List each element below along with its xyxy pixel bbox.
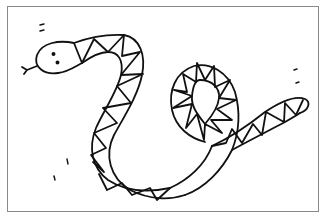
motion-mark-head-2 [40, 30, 44, 31]
snake-spiral-inner-edge [170, 146, 212, 188]
motion-mark-tail-1 [294, 69, 297, 70]
snake-tongue [22, 66, 37, 74]
motion-mark-head-1 [40, 24, 44, 25]
snake-tail-lower [232, 113, 300, 150]
snake-drawing [0, 0, 328, 218]
motion-mark-ground-2 [54, 176, 55, 180]
snake-eye-left [52, 53, 54, 55]
frame-border [8, 7, 319, 212]
snake-eye-right [56, 61, 58, 63]
motion-mark-tail-2 [296, 82, 299, 83]
snake-body-outline-inner [82, 52, 170, 190]
snake-body-outline-outer [74, 35, 185, 198]
motion-mark-ground-1 [67, 159, 68, 164]
snake-scale-pattern-lower [99, 174, 170, 200]
illustration-canvas: snake line drawing [0, 0, 328, 218]
